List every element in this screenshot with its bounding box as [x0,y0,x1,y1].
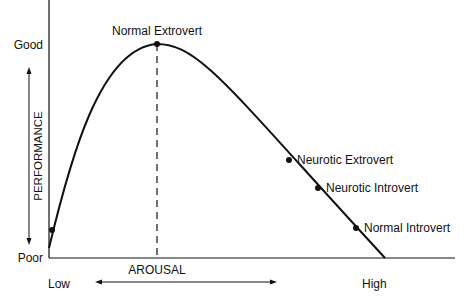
point-label: Normal Extrovert [112,24,203,38]
arousal-performance-diagram: Good Poor PERFORMANCE Low High AROUSAL N… [0,0,468,296]
x-axis-title: AROUSAL [128,263,186,277]
point-label: Normal Introvert [364,221,451,235]
y-high-label: Good [14,38,43,52]
arrow-down-icon [27,238,32,245]
performance-curve [49,44,385,258]
data-point [315,185,321,191]
x-arrow [95,280,277,285]
y-axis-title: PERFORMANCE [32,111,44,201]
data-point [286,157,292,163]
data-point [154,41,160,47]
point-label: Neurotic Extrovert [297,153,394,167]
y-arrow [27,67,32,245]
x-low-label: Low [48,277,70,291]
data-point [49,227,55,233]
arrow-up-icon [27,67,32,74]
point-label: Neurotic Introvert [326,181,419,195]
arrow-left-icon [95,280,102,285]
data-point [353,225,359,231]
arrow-right-icon [270,280,277,285]
y-low-label: Poor [18,251,43,265]
x-high-label: High [362,277,387,291]
